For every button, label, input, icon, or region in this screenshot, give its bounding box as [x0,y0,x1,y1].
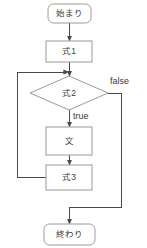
node-shape-expr1 [46,41,92,62]
flowchart-canvas: 始まり 式1 式2 文 式3 終わり false true [0,0,147,248]
node-shape-expr3 [46,165,92,190]
node-shape-cond [30,76,108,110]
flowchart-graphic [0,0,147,248]
edge-label-false: false [110,77,129,86]
node-shape-start [48,4,91,23]
node-shape-end [44,224,95,245]
edge-label-true: true [73,112,89,121]
node-shape-stmt [46,127,92,155]
